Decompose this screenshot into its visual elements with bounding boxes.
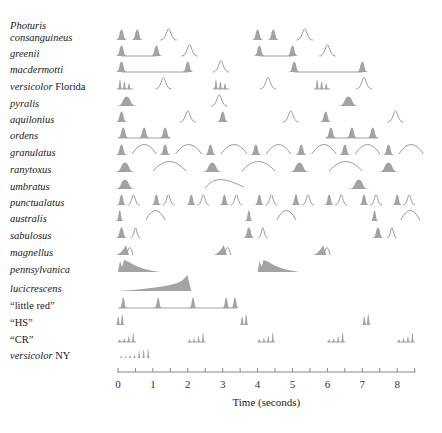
x-axis-tick-label: 1 <box>150 378 156 390</box>
flash-pulse-filled <box>186 195 196 205</box>
flash-pulse-wide <box>288 163 310 173</box>
flash-pulse-wide <box>337 97 359 107</box>
flash-pulse-filled <box>115 145 127 155</box>
species-label: lucicrescens <box>10 283 62 294</box>
flash-pulse-outline <box>302 195 314 205</box>
flash-arc <box>266 145 290 155</box>
flash-row <box>119 349 149 359</box>
flash-pulse-spike <box>119 356 122 358</box>
flash-pulse-filled <box>356 62 368 72</box>
flash-pulse-glow <box>214 245 227 255</box>
species-label-part: “CR” <box>10 334 34 345</box>
flash-row <box>116 211 420 222</box>
flash-pulse-outline <box>213 61 229 72</box>
flash-pulse-filled <box>287 46 299 56</box>
species-label-line2: consanguineus <box>10 32 72 43</box>
flash-pulse-spike <box>127 83 132 89</box>
species-label-part: ranytoxus <box>10 164 51 175</box>
flash-pulse-spike <box>122 81 127 89</box>
flash-pulse-narrow <box>371 211 379 221</box>
species-label-part: NY <box>53 350 71 361</box>
flash-pulse-outline <box>265 195 277 205</box>
flash-pulse-wide <box>348 180 370 190</box>
x-axis-tick-label: 7 <box>360 378 366 390</box>
species-label: granulatus <box>10 147 56 158</box>
flash-pulse-narrow <box>119 298 127 308</box>
flash-pulse-wide <box>114 163 136 173</box>
species-label-part: “HS” <box>10 317 33 328</box>
species-label: “CR” <box>10 334 34 345</box>
flash-row <box>116 195 415 205</box>
flash-pulse-spike <box>197 336 201 342</box>
flash-pulse-outline <box>297 29 313 40</box>
flash-pulse-filled <box>382 145 394 155</box>
flash-row <box>115 145 423 156</box>
flash-pulse-filled <box>324 195 334 205</box>
flash-arc <box>329 162 362 172</box>
flash-arc <box>399 145 423 155</box>
flash-pulse-spike <box>319 81 324 89</box>
flash-pulse-spike <box>138 350 141 358</box>
species-label-part: Photuris <box>9 20 46 31</box>
flash-pulse-glow <box>116 245 129 255</box>
flash-pulse-outline <box>283 111 299 122</box>
flash-pulse-spike <box>128 355 131 358</box>
flash-pulse-outline <box>403 195 415 205</box>
species-label-part: punctualatus <box>9 197 64 208</box>
flash-pattern-chart: Photurisconsanguineusgreeniimacdermottiv… <box>0 0 442 433</box>
flash-row <box>115 111 403 122</box>
species-label: macdermotti <box>10 64 63 75</box>
flash-pulse-outline-small <box>258 228 268 238</box>
flash-pulse-filled <box>115 30 127 40</box>
flash-decay <box>118 260 160 272</box>
flash-arc <box>176 145 202 155</box>
flash-pulse-outline <box>182 45 198 56</box>
flash-pulse-spike <box>214 80 219 90</box>
species-label: greenii <box>10 48 39 59</box>
flash-pulse-filled <box>254 195 264 205</box>
flash-pulse-filled <box>138 128 150 138</box>
flash-row <box>117 128 379 138</box>
flash-pulse-spike <box>142 349 145 358</box>
flash-pulse-spike <box>120 315 125 325</box>
flash-marks <box>114 29 423 358</box>
flash-arc <box>312 145 336 155</box>
flash-pulse-filled <box>115 228 127 238</box>
species-label-part: pyralis <box>9 98 39 109</box>
species-label-part: australis <box>10 213 47 224</box>
x-axis-tick-label: 2 <box>185 378 191 390</box>
flash-pulse-outline <box>260 78 276 89</box>
flash-pulse-spike <box>218 81 223 89</box>
flash-row <box>116 245 330 255</box>
flash-arc <box>355 145 379 155</box>
flash-pulse-filled <box>252 30 264 40</box>
species-label: aquilonius <box>10 114 54 125</box>
flash-pulse-wide <box>201 163 223 173</box>
flash-decay <box>258 260 300 272</box>
species-label-part: versicolor <box>10 350 53 361</box>
flash-pulse-spike <box>118 80 123 90</box>
flash-pulse-filled <box>219 195 229 205</box>
species-label-part: sabulosus <box>10 230 51 241</box>
flash-pulse-filled <box>295 145 307 155</box>
species-label-part: greenii <box>10 48 39 59</box>
flash-pulse-filled <box>151 195 161 205</box>
flash-pulse-filled <box>204 145 216 155</box>
flash-arc <box>401 211 420 221</box>
flash-row <box>118 275 191 291</box>
species-label-part: macdermotti <box>10 64 63 75</box>
flash-pulse-spike <box>127 336 131 342</box>
species-label-part: umbratus <box>10 181 50 192</box>
flash-pulse-spike <box>332 338 336 342</box>
flash-pulse-outline <box>155 78 171 89</box>
flash-row <box>118 333 415 343</box>
flash-ramp <box>118 275 191 291</box>
flash-pulse-filled <box>243 228 255 238</box>
x-axis-tick-label: 5 <box>290 378 296 390</box>
flash-pulse-glow <box>313 245 326 255</box>
flash-pulse-spike <box>336 336 340 342</box>
species-label-part: consanguineus <box>10 32 72 43</box>
species-label-part: Florida <box>53 81 86 92</box>
species-label: umbratus <box>10 181 50 192</box>
flash-arc <box>277 211 296 221</box>
